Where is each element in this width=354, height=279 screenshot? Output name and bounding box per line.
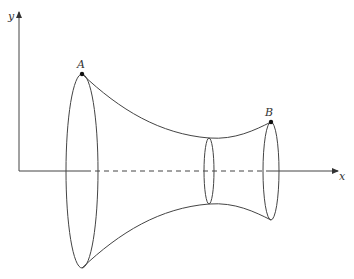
point-b-marker xyxy=(269,120,273,124)
top-profile-curve xyxy=(82,74,271,138)
point-a-label: A xyxy=(76,58,85,71)
x-axis-label: x xyxy=(339,170,346,183)
bottom-profile-curve xyxy=(82,204,271,268)
surface-of-revolution-diagram: y x A B xyxy=(0,0,354,279)
y-axis-label: y xyxy=(7,10,15,23)
point-a-marker xyxy=(80,72,84,76)
diagram-svg: y x A B xyxy=(0,0,354,279)
point-b-label: B xyxy=(264,106,273,119)
